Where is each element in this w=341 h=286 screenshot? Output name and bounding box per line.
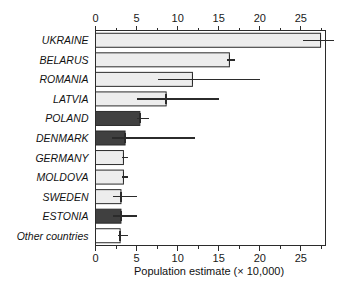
top-tick-label: 25 <box>295 12 307 24</box>
category-label-germany: GERMANY <box>35 152 89 164</box>
top-tick-label: 20 <box>254 12 266 24</box>
bottom-tick-label: 25 <box>295 252 307 264</box>
top-tick-label: 0 <box>92 12 98 24</box>
bar-chart-svg: 0510152025 0510152025 UKRAINEBELARUSROMA… <box>0 0 341 286</box>
category-label-denmark: DENMARK <box>36 132 90 144</box>
top-tick-label: 5 <box>134 12 140 24</box>
chart-figure: 0510152025 0510152025 UKRAINEBELARUSROMA… <box>0 0 341 286</box>
category-label-sweden: SWEDEN <box>42 191 89 203</box>
bar-moldova <box>96 170 124 184</box>
bottom-tick-label: 0 <box>92 252 98 264</box>
bar-germany <box>96 151 124 165</box>
category-label-moldova: MOLDOVA <box>37 171 89 183</box>
x-axis-title: Population estimate (× 10,000) <box>134 265 284 277</box>
top-tick-label: 10 <box>172 12 184 24</box>
category-label-poland: POLAND <box>45 112 89 124</box>
bottom-tick-label: 5 <box>134 252 140 264</box>
category-label-romania: ROMANIA <box>39 73 88 85</box>
bar-ukraine <box>96 33 321 47</box>
top-tick-label: 15 <box>213 12 225 24</box>
bottom-tick-label: 15 <box>213 252 225 264</box>
category-label-belarus: BELARUS <box>39 54 88 66</box>
category-label-other-countries: Other countries <box>17 230 90 242</box>
category-label-latvia: LATVIA <box>53 93 88 105</box>
bottom-tick-label: 20 <box>254 252 266 264</box>
category-label-ukraine: UKRAINE <box>42 34 90 46</box>
bar-belarus <box>96 53 230 67</box>
bar-other-countries <box>96 229 121 243</box>
category-label-estonia: ESTONIA <box>43 210 89 222</box>
bottom-tick-label: 10 <box>172 252 184 264</box>
bar-poland <box>96 111 140 125</box>
